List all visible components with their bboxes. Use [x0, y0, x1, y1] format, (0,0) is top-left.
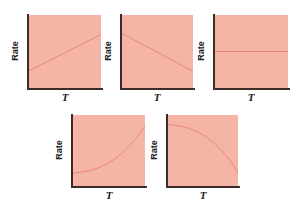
y-axis-label: Rate [10, 41, 20, 61]
panel-exponential-increasing: Rate T [73, 115, 145, 186]
panel-linear-decreasing: Rate T [122, 15, 193, 88]
curve-line [122, 15, 193, 88]
y-axis-line [27, 14, 29, 90]
curve-path [73, 126, 145, 173]
y-axis-line [166, 114, 168, 188]
curve-line [215, 15, 288, 88]
figure-rate-vs-temperature-panels: Rate T Rate T Rate T [0, 0, 300, 207]
x-axis-label: T [62, 91, 69, 103]
plot-area [122, 15, 193, 88]
x-axis-label: T [248, 91, 255, 103]
plot-area [73, 115, 145, 186]
x-axis-line [213, 88, 290, 90]
x-axis-line [27, 88, 103, 90]
y-axis-label: Rate [54, 140, 64, 160]
panel-constant: Rate T [215, 15, 288, 88]
x-axis-line [166, 186, 240, 188]
x-axis-label: T [200, 189, 207, 201]
panel-exponential-decreasing: Rate T [168, 115, 238, 186]
y-axis-label: Rate [149, 140, 159, 160]
plot-area [29, 15, 101, 88]
curve-line [29, 15, 101, 88]
panel-linear-increasing: Rate T [29, 15, 101, 88]
curve-path [122, 33, 193, 71]
y-axis-label: Rate [103, 41, 113, 61]
y-axis-line [120, 14, 122, 90]
x-axis-line [71, 186, 147, 188]
y-axis-line [71, 114, 73, 188]
curve-line [168, 115, 238, 186]
plot-area [168, 115, 238, 186]
curve-line [73, 115, 145, 186]
x-axis-label: T [106, 189, 113, 201]
x-axis-label: T [154, 91, 161, 103]
x-axis-line [120, 88, 195, 90]
plot-area [215, 15, 288, 88]
y-axis-line [213, 14, 215, 90]
y-axis-label: Rate [196, 41, 206, 61]
curve-path [29, 34, 101, 71]
curve-path [168, 124, 238, 173]
